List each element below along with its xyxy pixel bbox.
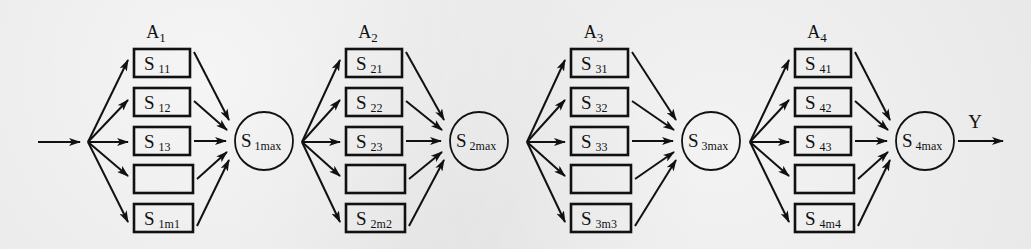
- fan-out-arrow: [302, 142, 340, 176]
- box-label: S33: [581, 131, 608, 154]
- diagram-canvas: A1S11S12S13S1m1S1maxA2S21S22S23S2m2S2max…: [0, 0, 1031, 249]
- box-label-sub: 13: [159, 140, 171, 154]
- fan-out-arrow: [750, 142, 789, 222]
- box-label-main: S: [144, 92, 155, 113]
- group-label-main: A: [146, 22, 159, 42]
- strategy-box: S23: [346, 127, 402, 155]
- converge-arrow: [409, 160, 444, 226]
- fan-out-arrow: [750, 60, 789, 142]
- group-label: A1: [146, 22, 166, 45]
- box-label-sub: 4m4: [820, 217, 841, 231]
- strategy-box: S2m2: [346, 204, 405, 232]
- box-label-main: S: [581, 53, 592, 74]
- strategy-box: S43: [795, 127, 851, 155]
- box-label: S42: [805, 92, 832, 115]
- converge-arrow: [635, 152, 674, 179]
- fan-out-arrow: [88, 142, 128, 222]
- box-label-sub: 42: [820, 101, 832, 115]
- max-node-sub: 4max: [916, 139, 943, 153]
- box-label-sub: 22: [371, 101, 383, 115]
- box-label-main: S: [144, 53, 155, 74]
- box-label-main: S: [805, 92, 816, 113]
- box-label-main: S: [581, 208, 592, 229]
- box-label-sub: 31: [596, 62, 608, 76]
- box-label: S3m3: [581, 208, 617, 231]
- stage-1: A1S11S12S13S1m1S1max: [0, 0, 293, 232]
- box-label: S31: [581, 53, 608, 76]
- group-label-index: 3: [597, 30, 604, 45]
- group-label-main: A: [807, 22, 820, 42]
- converge-arrow: [855, 52, 890, 120]
- box-label: S2m2: [356, 208, 392, 231]
- strategy-box: [0, 0, 405, 193]
- group-label: A3: [584, 22, 604, 45]
- box-label-sub: 3m3: [596, 217, 617, 231]
- box-label: S23: [356, 131, 383, 154]
- box-label-sub: 11: [159, 62, 171, 76]
- strategy-box: S4m4: [795, 204, 854, 232]
- fan-out-arrow: [527, 142, 565, 222]
- strategy-box: S3m3: [571, 204, 631, 232]
- strategy-box: S21: [346, 49, 402, 77]
- group-label-main: A: [358, 22, 371, 42]
- strategy-box: S32: [571, 88, 628, 116]
- max-node: S3max: [682, 112, 740, 170]
- box-label-main: S: [356, 92, 367, 113]
- fan-out-arrow: [527, 60, 565, 142]
- max-node-main: S: [902, 130, 913, 151]
- strategy-box: S42: [795, 88, 851, 116]
- strategy-box: S33: [571, 127, 628, 155]
- max-node: S4max: [896, 112, 954, 170]
- box-label: S12: [144, 92, 171, 115]
- converge-arrow: [197, 160, 229, 226]
- group-label-index: 2: [371, 30, 378, 45]
- box-label: S32: [581, 92, 608, 115]
- box-label: S22: [356, 92, 383, 115]
- box-label-main: S: [581, 131, 592, 152]
- box-label-sub: 23: [371, 140, 383, 154]
- converge-arrow: [632, 52, 676, 120]
- group-label-index: 1: [159, 30, 166, 45]
- box-label-sub: 32: [596, 101, 608, 115]
- max-node-sub: 2max: [470, 139, 497, 153]
- box-outline: [795, 165, 854, 193]
- max-node-main: S: [241, 130, 252, 151]
- fan-out-arrow: [750, 100, 789, 142]
- box-label-main: S: [144, 208, 155, 229]
- box-label-sub: 21: [371, 62, 383, 76]
- fan-out-arrow: [527, 142, 565, 176]
- max-node-main: S: [456, 130, 467, 151]
- box-label: S13: [144, 131, 171, 154]
- max-node: S1max: [235, 112, 293, 170]
- box-label-main: S: [356, 208, 367, 229]
- max-node-sub: 3max: [702, 139, 729, 153]
- max-node-label: S1max: [241, 130, 281, 153]
- fan-out-arrow: [302, 60, 340, 142]
- box-label-sub: 1m1: [159, 217, 180, 231]
- converge-arrow: [406, 52, 444, 120]
- strategy-box: S1m1: [134, 204, 193, 232]
- strategy-box: S41: [795, 49, 851, 77]
- box-label: S4m4: [805, 208, 841, 231]
- group-label: A4: [807, 22, 827, 45]
- max-node-label: S3max: [688, 130, 728, 153]
- box-label-main: S: [581, 92, 592, 113]
- max-node: S2max: [450, 112, 508, 170]
- fan-out-arrow: [527, 100, 565, 142]
- box-outline: [346, 165, 405, 193]
- max-node-label: S2max: [456, 130, 496, 153]
- output-label: Y: [968, 111, 982, 132]
- strategy-box: [0, 0, 631, 193]
- fan-out-arrow: [88, 142, 128, 176]
- group-label-main: A: [584, 22, 597, 42]
- max-node-sub: 1max: [255, 139, 282, 153]
- box-label-main: S: [805, 131, 816, 152]
- fan-out-arrow: [88, 100, 128, 142]
- stages-group: A1S11S12S13S1m1S1maxA2S21S22S23S2m2S2max…: [0, 0, 954, 232]
- strategy-box: S31: [571, 49, 628, 77]
- fan-out-arrow: [302, 142, 340, 222]
- fan-out-arrow: [750, 142, 789, 176]
- strategy-box: S22: [346, 88, 402, 116]
- converge-arrow: [635, 160, 676, 226]
- box-label-sub: 41: [820, 62, 832, 76]
